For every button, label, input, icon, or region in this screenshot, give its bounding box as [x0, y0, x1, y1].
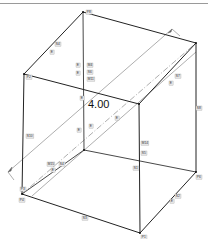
- vertex-point[interactable]: [138, 103, 140, 105]
- label-tag[interactable]: P2: [26, 75, 32, 79]
- label-tag-text: S2: [176, 194, 180, 198]
- label-tag-text: E: [51, 50, 53, 54]
- label-tag[interactable]: E: [80, 96, 84, 100]
- label-tag-text: E: [116, 116, 118, 120]
- label-tag[interactable]: S5: [141, 151, 147, 155]
- label-tag[interactable]: S10: [26, 134, 34, 138]
- label-tag-text: S6: [88, 70, 92, 74]
- label-tag[interactable]: E: [76, 71, 80, 75]
- edge-bottom-front-right: [140, 172, 196, 233]
- label-tag[interactable]: S4: [59, 162, 65, 166]
- label-tag-text: E: [81, 96, 83, 100]
- label-tag-text: P3: [21, 187, 25, 191]
- vertex-point[interactable]: [139, 232, 141, 234]
- label-tag[interactable]: E: [169, 81, 173, 85]
- label-tag[interactable]: S2: [175, 194, 181, 198]
- label-tag[interactable]: E: [76, 63, 80, 67]
- label-tag[interactable]: M15: [47, 162, 55, 166]
- label-tag-text: E: [78, 128, 80, 132]
- label-tag[interactable]: S6: [87, 70, 93, 74]
- edge-top-front-right: [139, 43, 196, 104]
- label-tag[interactable]: P8: [86, 10, 92, 14]
- label-tag-text: S1: [134, 166, 138, 170]
- label-tag[interactable]: P6: [196, 175, 202, 179]
- label-tag[interactable]: P4: [19, 198, 25, 202]
- label-tag[interactable]: M14: [141, 141, 149, 145]
- label-tag-text: S4: [56, 42, 60, 46]
- label-tag[interactable]: S1: [133, 166, 139, 170]
- vertex-point[interactable]: [21, 193, 23, 195]
- label-tag[interactable]: E: [50, 50, 54, 54]
- vertex-point[interactable]: [83, 149, 85, 151]
- label-tag[interactable]: S8: [196, 106, 202, 110]
- label-tag[interactable]: S7: [175, 74, 181, 78]
- vertex-point[interactable]: [195, 42, 197, 44]
- label-tag-text: M15: [48, 162, 54, 166]
- label-tag-text: S8: [197, 106, 201, 110]
- edge-top-back-left: [24, 12, 83, 74]
- label-tag[interactable]: M4: [87, 63, 93, 67]
- label-tag[interactable]: E: [115, 116, 119, 120]
- label-tag-text: P4: [20, 198, 24, 202]
- label-tag-text: S10: [27, 134, 33, 138]
- label-tags: P8S4EEEM4S6M11P2S7ES8ES10EEEM14S5M15S4ES…: [19, 10, 202, 239]
- dimension-extension-bottom: [8, 172, 14, 180]
- label-tag-text: P8: [87, 10, 91, 14]
- label-tag-text: M4: [88, 63, 93, 67]
- label-tag-text: E: [77, 71, 79, 75]
- label-tag-text: E: [171, 199, 173, 203]
- label-tag[interactable]: E: [77, 128, 81, 132]
- label-tag-text: E: [170, 81, 172, 85]
- dimension-extension-top: [172, 29, 180, 36]
- dimension-value: 4.00: [88, 98, 109, 110]
- label-tag-text: S5: [142, 151, 146, 155]
- diagonal-parallel-line: [32, 52, 196, 196]
- label-tag-text: S7: [176, 74, 180, 78]
- cube-diagram: P8S4EEEM4S6M11P2S7ES8ES10EEEM14S5M15S4ES…: [0, 0, 208, 239]
- label-tag-text: E: [90, 124, 92, 128]
- dimension-lines: [8, 29, 196, 196]
- vertex-point[interactable]: [195, 171, 197, 173]
- label-tag-text: P1: [142, 235, 146, 239]
- label-tag[interactable]: E: [89, 124, 93, 128]
- label-tag[interactable]: M11: [87, 77, 95, 81]
- label-tag-text: S3: [83, 216, 87, 220]
- label-tag[interactable]: P1: [141, 235, 147, 239]
- edge-bottom-front-left: [22, 194, 140, 233]
- label-tag[interactable]: E: [51, 168, 55, 172]
- vertex-point[interactable]: [82, 11, 84, 13]
- label-tag-text: P6: [197, 175, 201, 179]
- label-tag-text: S4: [60, 162, 64, 166]
- vertex-point[interactable]: [23, 73, 25, 75]
- label-tag-text: E: [52, 168, 54, 172]
- label-tag-text: M11: [88, 77, 94, 81]
- edge-back-vertical: [83, 12, 84, 150]
- label-tag[interactable]: P3: [20, 187, 26, 191]
- diagonal-centerline: [22, 43, 196, 194]
- label-tag-text: E: [77, 63, 79, 67]
- label-tag-text: P2: [27, 75, 31, 79]
- label-tag[interactable]: S4: [55, 42, 61, 46]
- label-tag-text: M14: [142, 141, 148, 145]
- edge-left-vertical: [22, 74, 24, 194]
- label-tag[interactable]: S3: [82, 216, 88, 220]
- label-tag[interactable]: E: [170, 199, 174, 203]
- arrow-head-icon: [8, 167, 12, 172]
- edge-top-back-right: [83, 12, 196, 43]
- arrow-head-icon: [168, 29, 172, 33]
